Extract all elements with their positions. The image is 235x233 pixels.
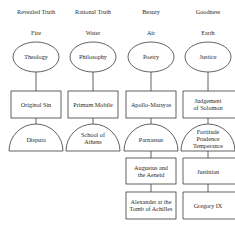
label-virtues: Fortitude Prudence Temperance bbox=[193, 128, 223, 149]
stanza-schema-diagram: Revealed Truth Rational Truth Beauty Goo… bbox=[0, 0, 235, 233]
label-line: Fortitude bbox=[193, 128, 223, 135]
label-parnassus: Parnassus bbox=[139, 136, 163, 143]
label-line: Prudence bbox=[193, 135, 223, 142]
label-poetry: Poetry bbox=[143, 53, 159, 60]
label-line: Temperance bbox=[193, 142, 223, 149]
label-original-sin: Original Sin bbox=[21, 101, 51, 108]
label-philosophy: Philosophy bbox=[79, 53, 107, 60]
label-line: School of bbox=[81, 131, 105, 138]
header-revealed-truth: Revealed Truth bbox=[17, 8, 55, 15]
label-line: the Aeneid bbox=[134, 171, 168, 178]
label-justice: Justice bbox=[200, 53, 217, 60]
element-fire: Fire bbox=[31, 29, 41, 36]
label-line: Athens bbox=[81, 138, 105, 145]
label-alexander-achilles: Alexander at the Tomb of Achilles bbox=[130, 198, 173, 212]
label-line: Judgement bbox=[193, 97, 222, 104]
header-beauty: Beauty bbox=[142, 8, 160, 15]
label-line: Alexander at the bbox=[130, 198, 173, 205]
element-air: Air bbox=[147, 29, 155, 36]
header-rational-truth: Rational Truth bbox=[75, 8, 111, 15]
header-goodness: Goodness bbox=[196, 8, 220, 15]
label-judgement-solomon: Judgement of Solomon bbox=[193, 97, 222, 111]
label-school-of-athens: School of Athens bbox=[81, 131, 105, 145]
label-primum-mobile: Primum Mobile bbox=[73, 101, 112, 108]
label-line: of Solomon bbox=[193, 104, 222, 111]
label-augustus-aeneid: Augustus and the Aeneid bbox=[134, 164, 168, 178]
label-apollo-marsyas: Apollo-Marsyas bbox=[131, 101, 171, 108]
element-water: Water bbox=[86, 29, 101, 36]
label-theology: Theology bbox=[24, 53, 48, 60]
label-justinian: Justinian bbox=[197, 168, 219, 175]
element-earth: Earth bbox=[201, 29, 214, 36]
label-disputa: Disputa bbox=[26, 136, 45, 143]
label-gregory-ix: Gregory IX bbox=[194, 202, 223, 209]
label-line: Augustus and bbox=[134, 164, 168, 171]
label-line: Tomb of Achilles bbox=[130, 205, 173, 212]
